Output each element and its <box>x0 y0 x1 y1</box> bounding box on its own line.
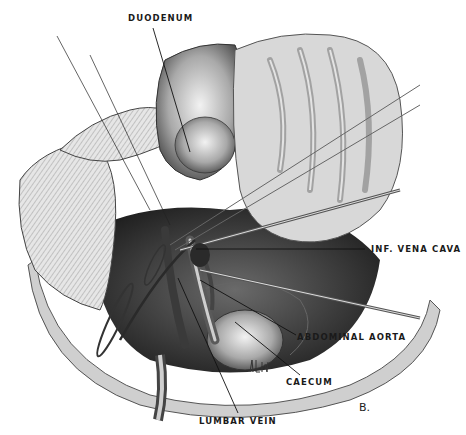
label-abdominal-aorta: ABDOMINAL AORTA <box>297 332 406 342</box>
label-inf-vena-cava: INF. VENA CAVA <box>371 244 461 254</box>
label-caecum: CAECUM <box>286 377 333 387</box>
anatomical-illustration <box>0 0 466 435</box>
label-duodenum: DUODENUM <box>128 13 193 23</box>
small-bowel <box>233 34 402 242</box>
label-lumbar-vein: LUMBAR VEIN <box>199 416 277 426</box>
panel-letter: B. <box>359 401 370 414</box>
